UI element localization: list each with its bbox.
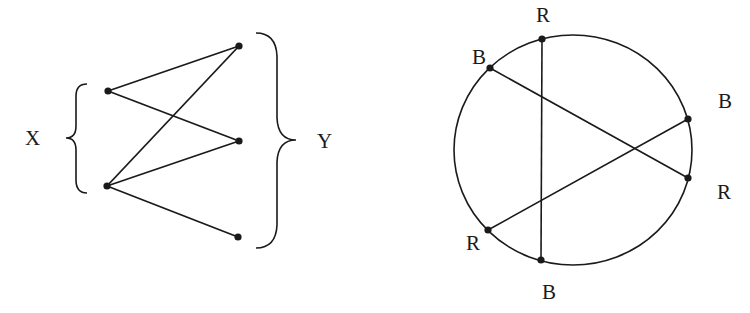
point-label-p1: R	[536, 3, 550, 27]
chords	[488, 39, 688, 260]
node-y1	[235, 42, 242, 49]
node-x1	[104, 87, 111, 94]
bipartite-edges	[107, 46, 239, 237]
left-brace	[66, 84, 87, 193]
point-label-p5: R	[466, 231, 480, 255]
point-label-p3: B	[718, 89, 732, 113]
point-p6	[537, 256, 544, 263]
edge-x2-y1	[107, 46, 239, 186]
edge-x2-y3	[107, 186, 238, 237]
node-x2	[103, 182, 110, 189]
bipartite-graph: X Y	[25, 33, 332, 248]
point-label-p6: B	[542, 280, 556, 304]
diagram-canvas: X Y RBBRRB	[0, 0, 750, 313]
circle-points	[484, 35, 691, 263]
node-y2	[235, 137, 242, 144]
edge-x2-y2	[107, 141, 239, 186]
chord-p2-p4	[490, 68, 688, 178]
node-y3	[234, 233, 241, 240]
point-p5	[484, 226, 491, 233]
point-label-p2: B	[472, 45, 486, 69]
set-y-label: Y	[317, 129, 332, 153]
point-p1	[538, 35, 545, 42]
edge-x1-y1	[108, 46, 239, 91]
chord-p3-p5	[488, 119, 688, 230]
point-p2	[486, 64, 493, 71]
point-p3	[684, 115, 691, 122]
right-brace	[256, 33, 296, 248]
point-label-p4: R	[717, 180, 731, 204]
circle-chord-diagram: RBBRRB	[454, 3, 732, 304]
point-p4	[684, 174, 691, 181]
chord-p1-p6	[541, 39, 542, 260]
set-x-label: X	[25, 126, 40, 150]
